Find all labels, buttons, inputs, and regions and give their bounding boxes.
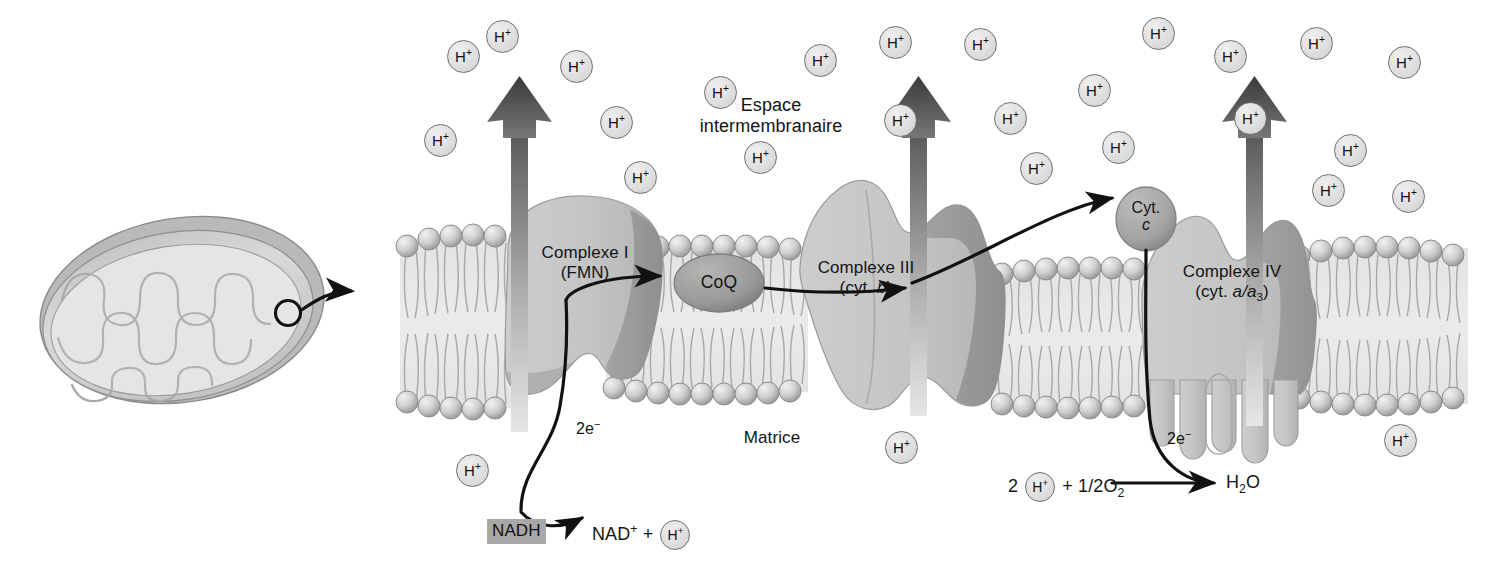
proton-icon-intermembrane-22: H+	[1388, 46, 1421, 79]
complex-iv-cyt-a: a/a	[1233, 282, 1257, 301]
water-product-label: H2O	[1226, 472, 1260, 496]
cytochrome-c-label: Cyt. c	[1132, 200, 1161, 234]
proton-icon-intermembrane-10: H+	[884, 104, 917, 137]
matrix-label: Matrice	[744, 428, 800, 448]
cytc-c-italic: c	[1142, 216, 1150, 233]
proton-icon-intermembrane-13: H+	[1020, 152, 1053, 185]
complex-iii-cyt-close: )	[887, 278, 893, 297]
complex-iii-cyt-b: b	[877, 278, 887, 297]
proton-icon-matrix-2: H+	[1384, 424, 1417, 457]
proton-icon-intermembrane-14: H+	[1078, 74, 1111, 107]
two-electrons-left-label: 2e−	[576, 418, 600, 439]
proton-icon-matrix-1: H+	[885, 431, 918, 464]
mitochondrion-illustration	[26, 197, 352, 423]
complex-iv-protein	[1142, 216, 1316, 463]
proton-icon-intermembrane-8: H+	[804, 44, 837, 77]
proton-icon-intermembrane-20: H+	[1312, 174, 1345, 207]
proton-icon-intermembrane-1: H+	[447, 40, 480, 73]
membrane-segment-middle-right	[991, 257, 1150, 419]
proton-icon-intermembrane-6: H+	[704, 76, 737, 109]
complex-iii-cyt-open: (cyt.	[840, 278, 877, 297]
proton-icon-intermembrane-0: H+	[424, 124, 457, 157]
proton-icon-intermembrane-21: H+	[1392, 180, 1425, 213]
diagram-canvas: (horizontal into the H2O arrow) --> Espa…	[0, 0, 1491, 580]
complex-iv-cyt-close: )	[1263, 282, 1269, 301]
proton-icon-reactant: H+	[1025, 472, 1055, 502]
nadh-label: NADH	[487, 519, 546, 544]
proton-icon-intermembrane-16: H+	[1142, 17, 1175, 50]
complex-iv-label: Complexe IV (cyt. a/a3)	[1183, 262, 1281, 305]
reaction-plus: +	[1062, 476, 1073, 496]
proton-icon-intermembrane-18: H+	[1234, 102, 1267, 135]
water-reaction-label: 2 H+ + 1/2O2	[1008, 472, 1124, 502]
complex-i-protein	[505, 196, 662, 394]
proton-icon-intermembrane-19: H+	[1300, 27, 1333, 60]
proton-icon-intermembrane-7: H+	[744, 141, 777, 174]
two-electrons-right-label: 2e−	[1167, 428, 1191, 449]
proton-icon-intermembrane-5: H+	[624, 161, 657, 194]
proton-icon-intermembrane-11: H+	[964, 28, 997, 61]
proton-icon-intermembrane-17: H+	[1214, 40, 1247, 73]
proton-icon-nad-product: H+	[660, 520, 690, 550]
proton-icon-intermembrane-2: H+	[486, 20, 519, 53]
reaction-coefficient-two: 2	[1008, 476, 1018, 496]
proton-icon-intermembrane-23: H+	[1334, 134, 1367, 167]
proton-icon-intermembrane-15: H+	[1102, 131, 1135, 164]
coq-label: CoQ	[701, 272, 737, 292]
proton-icon-intermembrane-9: H+	[879, 26, 912, 59]
complex-iv-cyt-open: (cyt.	[1195, 282, 1232, 301]
nad-plus-product-label: NAD+ + H+	[592, 520, 692, 550]
proton-icon-intermembrane-3: H+	[560, 50, 593, 83]
complex-i-label: Complexe I (FMN)	[542, 243, 629, 282]
complex-iii-label: Complexe III (cyt. b)	[818, 258, 915, 297]
proton-icon-intermembrane-4: H+	[600, 106, 633, 139]
half-oxygen: 1/2O2	[1078, 476, 1124, 496]
proton-icon-intermembrane-12: H+	[994, 102, 1027, 135]
membrane-segment-left	[396, 224, 516, 420]
proton-icon-matrix-0: H+	[456, 454, 489, 487]
